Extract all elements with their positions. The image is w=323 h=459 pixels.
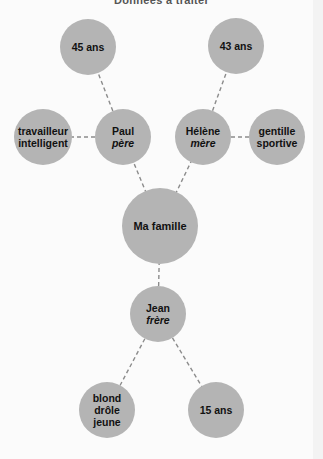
node-label: 15 ans bbox=[200, 404, 233, 416]
node-jean: Jean frère bbox=[130, 286, 186, 342]
node-label: drôle bbox=[94, 404, 120, 416]
node-paul: Paul père bbox=[95, 109, 151, 165]
node-name: Jean bbox=[146, 302, 170, 314]
node-label: jeune bbox=[93, 416, 120, 428]
node-role: mère bbox=[190, 137, 215, 149]
node-label: blond bbox=[93, 392, 122, 404]
node-name: Paul bbox=[112, 125, 134, 137]
node-jean-age: 15 ans bbox=[188, 382, 244, 438]
node-label: gentille bbox=[259, 125, 296, 137]
node-label: travailleur bbox=[18, 125, 68, 137]
node-label: Ma famille bbox=[133, 220, 186, 232]
node-label: intelligent bbox=[18, 137, 68, 149]
node-label: sportive bbox=[257, 137, 298, 149]
node-paul-age: 45 ans bbox=[60, 19, 116, 75]
node-paul-traits: travailleur intelligent bbox=[14, 109, 72, 165]
node-center: Ma famille bbox=[122, 188, 198, 264]
node-label: 43 ans bbox=[220, 40, 253, 52]
node-role: frère bbox=[146, 314, 169, 326]
node-role: père bbox=[112, 137, 134, 149]
node-label: 45 ans bbox=[72, 41, 105, 53]
node-helene: Hélène mère bbox=[175, 109, 231, 165]
node-name: Hélène bbox=[186, 125, 220, 137]
node-helene-traits: gentille sportive bbox=[249, 109, 305, 165]
node-jean-traits: blond drôle jeune bbox=[79, 382, 135, 438]
node-helene-age: 43 ans bbox=[208, 18, 264, 74]
